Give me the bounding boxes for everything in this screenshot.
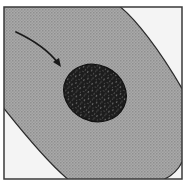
cell-diagram [0,0,185,187]
cell-diagram-svg [0,0,185,187]
